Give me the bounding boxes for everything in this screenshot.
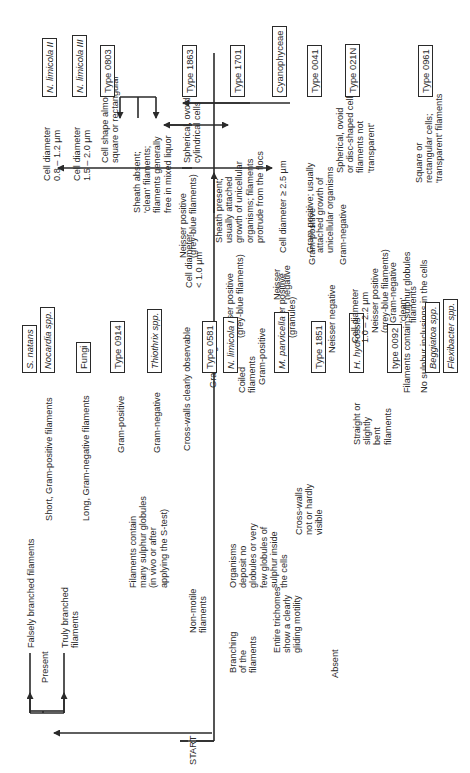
node-present: Present — [40, 651, 50, 683]
node-organisms-no-globules: Organisms deposit no globules or very fe… — [228, 523, 289, 588]
node-truly-branched: Truly branched filaments — [60, 587, 80, 648]
leaf-type-1851: Type 1851 — [311, 321, 326, 373]
node-sheath-absent: Sheath absent; 'clean' filaments; filame… — [132, 135, 173, 213]
node-straight-neisser-neg: Neisser negative — [327, 285, 337, 353]
leaf-type-0961: Type 0961 — [418, 45, 433, 97]
node-gram-neg-clean: Gram-negative 'clean' filaments — [388, 262, 419, 323]
leaf-n-limicola-1: N. limicola I — [223, 317, 238, 373]
node-sheath-present: Sheath present; usually attached growth … — [214, 151, 265, 243]
node-non-motile: Non-motile filaments — [188, 589, 208, 633]
leaf-type-0803: Type 0803 — [100, 45, 115, 97]
node-coiled: Coiled filaments — [237, 356, 257, 393]
node-square-transparent: Square or rectangular cells; 'transparen… — [414, 94, 445, 183]
leaf-type-0581: Type 0581 — [202, 321, 217, 373]
node-branching: Branching of the filaments — [228, 632, 259, 673]
node-cell-ge-25: Cell diameter ≥ 2.5 µm — [278, 160, 288, 253]
node-gram-neg-1: Gram-negative — [152, 392, 162, 453]
leaf-cyanophyceae: Cyanophyceae — [272, 26, 287, 97]
flowchart-canvas: START Branching of the filaments Present… — [0, 0, 470, 773]
node-gliding: Entire trichomes show a clearly gliding … — [272, 587, 303, 653]
leaf-n-limicola-3: N. limicola III — [72, 35, 87, 97]
leaf-nocardia: Nocardia spp. — [40, 307, 55, 373]
leaf-type-021n: Type 021N — [345, 44, 360, 97]
leaf-flexibacter: Flexibacter spp. — [443, 299, 458, 373]
node-straight-gram-neg: Gram-negative — [338, 204, 348, 265]
leaf-type-0092: type 0092 — [387, 324, 402, 373]
leaf-thiothrix: Thiothrix spp. — [147, 309, 162, 373]
node-falsely-branched: Falsely branched filaments — [26, 539, 36, 648]
node-long-gram-neg: Long, Gram-negative filaments — [81, 395, 91, 521]
node-cross-walls-not: Cross-walls not or hardly visible — [294, 484, 325, 535]
leaf-fungi: Fungi — [76, 342, 91, 373]
node-spherical-ovoid-cyl: Spherical, ovoid or cylindrical cells — [182, 87, 202, 163]
node-absent: Absent — [330, 649, 340, 678]
leaf-type-0041: Type 0041 — [307, 45, 322, 97]
node-short-gram-pos: Short, Gram-positive filaments — [44, 397, 54, 521]
node-cell-10-22: Cell diameter 1.0 – 2.2 µm — [350, 289, 370, 343]
node-straight: Straight or slightly bent filaments — [352, 403, 393, 445]
node-np-cell-15: Cell diameter 1.5 – 2.0 µm — [72, 127, 92, 181]
leaf-beggiatoa: Beggiatoa spp. — [425, 302, 440, 373]
node-neisser-neg-main: Neisser negative — [272, 265, 292, 300]
leaf-m-parvicella: M. parvicella — [274, 312, 289, 373]
node-cross-walls-clear: Cross-walls clearly observable — [182, 327, 192, 451]
leaf-s-natans: S. natans — [22, 325, 37, 373]
node-gram-pos-attached: Gram positive; usually attached growth o… — [305, 163, 336, 253]
leaf-n-limicola-2: N. limicola II — [42, 38, 57, 97]
node-sulphur-globules-many: Filaments contain many sulphur globules … — [128, 496, 169, 588]
node-coiled-gram-pos: Gram-positive — [257, 328, 267, 385]
leaf-type-1863: Type 1863 — [182, 45, 197, 97]
leaf-type-0914: Type 0914 — [110, 321, 125, 373]
node-gram-pos-1: Gram-positive — [116, 396, 126, 453]
node-np-cell-08: Cell diameter 0.8 – 1.2 µm — [42, 127, 62, 181]
node-start: START — [188, 736, 198, 765]
leaf-type-1701: Type 1701 — [230, 45, 245, 97]
node-cell-lt-1: Cell diameter < 1.0 µm — [184, 234, 204, 288]
node-spherical-disc: Spherical, ovoid or disc-shaped cells fi… — [335, 92, 376, 173]
